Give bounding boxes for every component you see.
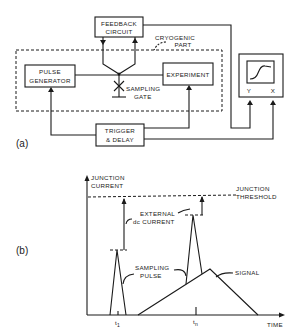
cryogenic-leader	[154, 42, 166, 50]
arrow-up-icon	[48, 87, 54, 92]
signal-label: SIGNAL	[235, 269, 260, 276]
pulse-generator-label-1: PULSE	[39, 68, 61, 75]
trigger-to-scope-x-line	[144, 103, 273, 139]
pulse-leader-left	[123, 274, 134, 284]
feedback-label-2: CIRCUIT	[105, 28, 132, 35]
external-label-1: EXTERNAL	[140, 210, 175, 217]
pulse-leader-right	[174, 270, 186, 276]
arrow-up-icon	[200, 196, 205, 202]
experiment-block: EXPERIMENT	[163, 63, 213, 85]
t1-label: t1	[115, 319, 120, 328]
arrow-up-icon	[85, 175, 90, 181]
cryogenic-label-1: CRYOGENIC	[155, 34, 195, 41]
panel-b-label: (b)	[16, 245, 28, 256]
sampling-pulse-label-2: PULSE	[140, 272, 162, 279]
threshold-label-1: JUNCTION	[236, 185, 270, 192]
oscilloscope: Y X	[239, 54, 283, 97]
arrow-up-icon	[132, 38, 138, 43]
y-axis-label-1: JUNCTION	[91, 174, 125, 181]
pulse-generator-label-2: GENERATOR	[29, 77, 71, 84]
threshold-line	[88, 195, 236, 197]
diagram-canvas: FEEDBACK CIRCUIT CRYOGENIC PART PULSE GE…	[0, 0, 301, 335]
arrow-up-icon	[122, 198, 127, 204]
feedback-v-lines	[103, 37, 135, 74]
external-leader-right	[178, 209, 190, 213]
scope-x-label: X	[271, 87, 275, 94]
external-label-2: dc CURRENT	[133, 218, 175, 225]
sampling-gate-label-2: GATE	[134, 93, 152, 100]
tn-label: tn	[193, 318, 198, 327]
scope-y-label: Y	[247, 87, 251, 94]
trigger-delay-block: TRIGGER & DELAY	[96, 124, 144, 146]
trigger-label-2: & DELAY	[106, 136, 134, 143]
x-axis-label: TIME	[267, 321, 283, 328]
pulse-generator-block: PULSE GENERATOR	[25, 65, 75, 87]
trigger-label-1: TRIGGER	[105, 127, 136, 134]
signal-leader	[216, 273, 233, 277]
y-axis-label-2: CURRENT	[91, 182, 123, 189]
trigger-to-pulse-line	[51, 90, 96, 135]
external-leader-left	[126, 219, 132, 224]
panel-a-label: (a)	[16, 138, 28, 149]
scope-screen	[247, 61, 274, 83]
feedback-circuit-block: FEEDBACK CIRCUIT	[95, 17, 143, 37]
experiment-label: EXPERIMENT	[166, 71, 209, 78]
sampling-pulse-label-1: SAMPLING	[135, 264, 169, 271]
arrow-down-icon	[100, 40, 106, 45]
sampling-pulse-tn	[186, 215, 202, 284]
arrow-up-icon	[247, 100, 253, 105]
threshold-label-2: THRESHOLD	[236, 193, 277, 200]
cryogenic-label-2: PART	[174, 41, 191, 48]
arrow-up-icon	[270, 100, 276, 105]
feedback-label-1: FEEDBACK	[101, 20, 137, 27]
sampling-gate-label-1: SAMPLING	[126, 85, 160, 92]
arrow-right-icon	[279, 313, 285, 318]
arrow-up-icon	[186, 85, 192, 90]
